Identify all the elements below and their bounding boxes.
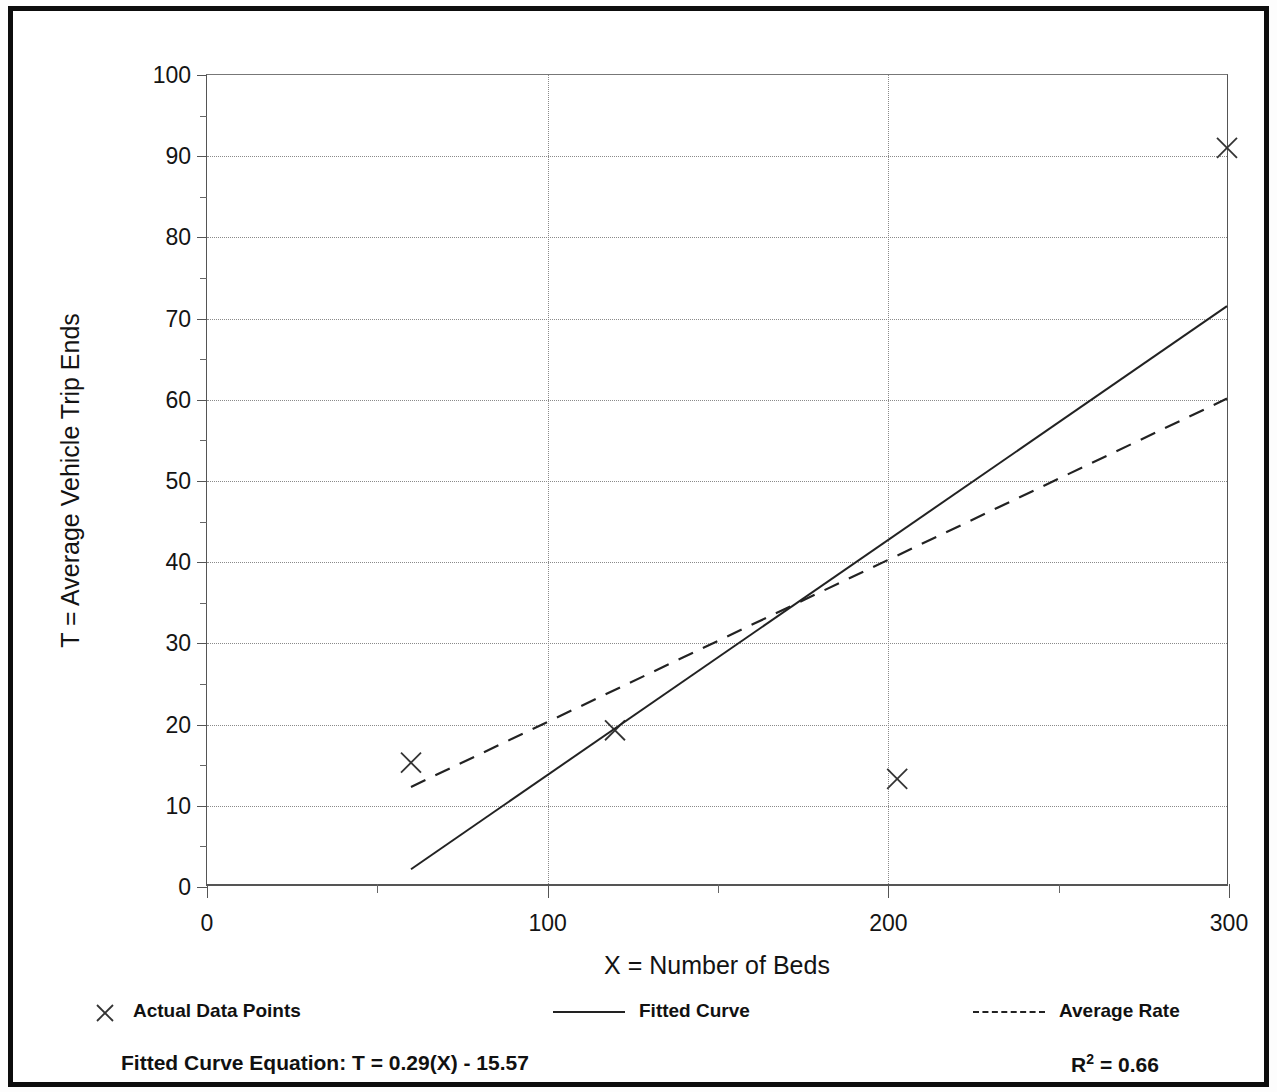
- y-tick-label: 20: [165, 711, 191, 738]
- y-tick-major: [197, 400, 207, 401]
- y-tick-minor: [200, 440, 207, 441]
- x-tick-label: 200: [869, 910, 907, 937]
- y-tick-label: 30: [165, 630, 191, 657]
- x-axis-title-label: X = Number of Beds: [604, 951, 830, 979]
- data-point-marker: [401, 753, 421, 773]
- legend-item[interactable]: Fitted Curve: [553, 996, 750, 1026]
- data-point-marker: [1217, 138, 1237, 158]
- r2-prefix: R: [1071, 1053, 1086, 1076]
- y-tick-label: 80: [165, 224, 191, 251]
- x-tick-label: 300: [1210, 910, 1248, 937]
- y-tick-label: 10: [165, 792, 191, 819]
- x-tick-major: [207, 884, 208, 898]
- series-line-fitted-curve: [411, 306, 1227, 869]
- y-tick-label: 90: [165, 143, 191, 170]
- y-tick-minor: [200, 278, 207, 279]
- x-tick-major: [1229, 884, 1230, 898]
- y-tick-major: [197, 237, 207, 238]
- x-marker-icon: [93, 1001, 119, 1021]
- x-tick-minor: [377, 884, 378, 893]
- legend-label: Fitted Curve: [639, 1000, 750, 1022]
- y-tick-label: 0: [178, 874, 191, 901]
- series-layer: [207, 75, 1227, 884]
- y-tick-major: [197, 156, 207, 157]
- legend-label: Average Rate: [1059, 1000, 1180, 1022]
- y-tick-minor: [200, 359, 207, 360]
- x-tick-major: [548, 884, 549, 898]
- x-tick-minor: [718, 884, 719, 893]
- y-tick-major: [197, 562, 207, 563]
- y-tick-label: 60: [165, 386, 191, 413]
- chart-page: T = Average Vehicle Trip Ends 0102030405…: [0, 0, 1277, 1092]
- legend-label: Actual Data Points: [133, 1000, 301, 1022]
- y-axis-title: T = Average Vehicle Trip Ends: [55, 74, 85, 886]
- data-point-marker: [887, 769, 907, 789]
- y-tick-major: [197, 643, 207, 644]
- fitted-curve-equation: Fitted Curve Equation: T = 0.29(X) - 15.…: [121, 1051, 529, 1075]
- y-tick-major: [197, 481, 207, 482]
- y-tick-minor: [200, 197, 207, 198]
- y-tick-major: [197, 806, 207, 807]
- solid-line-icon: [553, 1001, 625, 1021]
- x-tick-label: 0: [201, 910, 214, 937]
- y-tick-major: [197, 75, 207, 76]
- legend-item[interactable]: Actual Data Points: [93, 996, 301, 1026]
- y-tick-minor: [200, 765, 207, 766]
- r-squared-value: R2 = 0.66: [1071, 1051, 1159, 1077]
- x-tick-minor: [1059, 884, 1060, 893]
- y-axis-title-label: T = Average Vehicle Trip Ends: [56, 313, 85, 648]
- y-tick-major: [197, 887, 207, 888]
- legend-item[interactable]: Average Rate: [973, 996, 1180, 1026]
- y-tick-minor: [200, 846, 207, 847]
- chart-legend: Actual Data PointsFitted CurveAverage Ra…: [93, 996, 1233, 1026]
- plot-area: 01020304050607080901000100200300: [206, 74, 1228, 886]
- series-line-average-rate: [411, 399, 1227, 787]
- chart-footer: Fitted Curve Equation: T = 0.29(X) - 15.…: [93, 1051, 1233, 1085]
- page-frame: T = Average Vehicle Trip Ends 0102030405…: [8, 6, 1269, 1087]
- y-tick-minor: [200, 522, 207, 523]
- x-axis-title: X = Number of Beds: [206, 951, 1228, 980]
- r2-number: = 0.66: [1094, 1053, 1159, 1076]
- y-tick-label: 70: [165, 305, 191, 332]
- dashed-line-icon: [973, 1001, 1045, 1021]
- y-tick-minor: [200, 116, 207, 117]
- y-tick-label: 100: [153, 62, 191, 89]
- y-tick-major: [197, 319, 207, 320]
- y-tick-minor: [200, 684, 207, 685]
- x-tick-major: [888, 884, 889, 898]
- r2-exponent: 2: [1086, 1051, 1094, 1067]
- y-tick-minor: [200, 603, 207, 604]
- y-tick-major: [197, 725, 207, 726]
- x-tick-label: 100: [528, 910, 566, 937]
- y-tick-label: 50: [165, 468, 191, 495]
- y-tick-label: 40: [165, 549, 191, 576]
